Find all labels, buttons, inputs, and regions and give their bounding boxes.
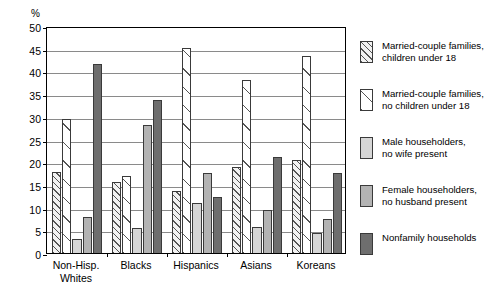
bar [52,172,61,253]
x-axis-tick-label: Koreans [296,259,335,272]
x-axis-tick-label: Asians [240,259,272,272]
bar [333,173,342,253]
legend-item[interactable]: Male householders, no wife present [360,136,466,159]
bar [62,119,71,253]
bar [302,56,311,253]
x-axis-tick-mark [287,253,288,257]
bar [83,217,92,253]
bar [172,191,181,253]
x-axis-tick-mark [167,253,168,257]
bar [182,48,191,253]
bar [263,210,272,253]
bar-group [47,28,107,253]
y-axis-tick-label: 45 [29,45,41,57]
y-axis-tick-label: 15 [29,181,41,193]
bar [192,203,201,253]
plot-inner: 50454035302520151050 [47,28,345,253]
legend-item[interactable]: Married-couple families, no children und… [360,88,484,111]
x-axis-tick-label-line: Asians [240,259,272,272]
bar [242,80,251,253]
bar [273,157,282,253]
y-axis-unit-label: % [31,8,40,20]
legend-item-label: Married-couple families, no children und… [382,88,484,111]
legend-item-label: Male householders, no wife present [382,136,466,159]
plot-area: 50454035302520151050 [46,27,346,254]
bar [292,160,301,253]
bar [213,197,222,253]
legend-item[interactable]: Married-couple families, children under … [360,40,484,63]
bar [312,233,321,253]
x-axis-tick-label: Non-Hisp.Whites [53,259,100,285]
legend-item[interactable]: Nonfamily households [360,232,476,255]
y-axis-tick-label: 50 [29,22,41,34]
y-axis-tick-label: 30 [29,113,41,125]
legend-item-label: Married-couple families, children under … [382,40,484,63]
y-axis-tick-mark [43,255,47,256]
bar [203,173,212,253]
bar [122,176,131,253]
legend-swatch-icon [360,89,373,111]
legend-swatch-icon [360,233,373,255]
y-axis-tick-label: 10 [29,204,41,216]
bar [72,239,81,253]
bar [323,219,332,253]
y-axis-tick-label: 5 [35,226,41,238]
bar-group [227,28,287,253]
bar [112,182,121,253]
x-axis-tick-label: Blacks [121,259,152,272]
bar [252,227,261,253]
legend-item[interactable]: Female householders, no husband present [360,184,477,207]
y-axis-tick-label: 35 [29,90,41,102]
x-axis-tick-mark [107,253,108,257]
bar [153,100,162,253]
bar [132,228,141,253]
y-axis-tick-label: 0 [35,249,41,261]
bar [93,64,102,253]
x-axis-tick-label-line: Blacks [121,259,152,272]
bar-group [287,28,347,253]
x-axis-tick-label-line: Koreans [296,259,335,272]
y-axis-tick-label: 25 [29,136,41,148]
chart-container: % 50454035302520151050 Married-couple fa… [0,0,499,307]
legend-swatch-icon [360,185,373,207]
x-axis-tick-label-line: Hispanics [173,259,219,272]
legend-swatch-icon [360,137,373,159]
bar [232,167,241,253]
bar [143,125,152,253]
x-axis-tick-label: Hispanics [173,259,219,272]
x-axis-tick-label-line: Whites [53,272,100,285]
x-axis-tick-label-line: Non-Hisp. [53,259,100,272]
legend-item-label: Female householders, no husband present [382,184,477,207]
bar-group [167,28,227,253]
legend-item-label: Nonfamily households [382,232,476,244]
x-axis-tick-mark [227,253,228,257]
y-axis-tick-label: 40 [29,67,41,79]
y-axis-tick-label: 20 [29,158,41,170]
bar-group [107,28,167,253]
legend-swatch-icon [360,41,373,63]
